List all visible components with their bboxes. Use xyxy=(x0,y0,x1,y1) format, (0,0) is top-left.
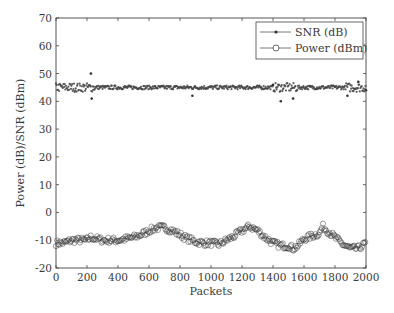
y-tick-label: 60 xyxy=(39,40,52,52)
x-tick-labels: 0200400600800100012001400160018002000 xyxy=(53,271,380,283)
x-tick-label: 1800 xyxy=(322,271,349,283)
chart-figure: 0200400600800100012001400160018002000 -2… xyxy=(0,0,394,313)
circle-marker-icon xyxy=(273,45,279,51)
legend: SNR (dB) Power (dBm) xyxy=(256,22,367,59)
y-tick-label: 0 xyxy=(45,206,52,218)
y-tick-label: 30 xyxy=(39,123,52,135)
data-points-layer xyxy=(53,72,367,253)
x-tick-label: 0 xyxy=(53,271,60,283)
legend-label-power: Power (dBm) xyxy=(295,42,367,55)
y-axis-label: Power (dB)/SNR (dBm) xyxy=(14,79,27,208)
x-tick-label: 1200 xyxy=(229,271,256,283)
legend-label-snr: SNR (dB) xyxy=(295,26,348,39)
y-tick-label: 40 xyxy=(39,95,52,107)
x-tick-label: 2000 xyxy=(353,271,380,283)
y-tick-label: 50 xyxy=(39,68,52,80)
y-tick-labels: -20-10010203040506070 xyxy=(35,12,52,274)
asterisk-marker-icon xyxy=(274,30,277,33)
x-tick-label: 1600 xyxy=(291,271,318,283)
y-tick-label: 70 xyxy=(39,12,52,24)
x-tick-label: 600 xyxy=(139,271,159,283)
x-axis-label: Packets xyxy=(190,285,233,298)
x-tick-label: 800 xyxy=(170,271,190,283)
x-tick-label: 1000 xyxy=(198,271,225,283)
x-tick-label: 400 xyxy=(108,271,128,283)
y-tick-label: -10 xyxy=(35,234,52,246)
y-tick-label: -20 xyxy=(35,262,52,274)
y-tick-label: 20 xyxy=(39,151,52,163)
x-tick-label: 1400 xyxy=(260,271,287,283)
x-tick-label: 200 xyxy=(77,271,97,283)
y-tick-label: 10 xyxy=(39,179,52,191)
